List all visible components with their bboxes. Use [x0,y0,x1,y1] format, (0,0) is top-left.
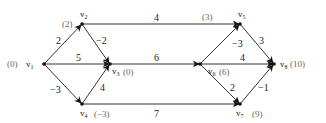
node-v2 [80,22,84,26]
label-v5: v5 [238,9,246,20]
label-v2: v2 [80,9,88,20]
value-v2: (2) [62,19,73,29]
weight-v4-v7: 7 [154,108,159,119]
edges [44,24,273,104]
value-v8: (10) [290,59,305,69]
weight-v6-v8: 4 [240,52,245,63]
node-v5 [238,22,242,26]
label-v3: v3 [112,66,120,77]
weight-v1-v2: 2 [56,35,61,46]
label-v6: v6 [208,66,216,77]
weight-v2-v3: −2 [96,35,107,46]
node-v7 [238,102,242,106]
label-v7: v7 [236,108,244,119]
directed-graph: 2 5 −3 −2 4 4 6 7 −3 4 2 3 −1 (0) v1 (2)… [0,0,326,123]
weight-v2-v5: 4 [154,12,159,23]
weight-v6-v5: −3 [232,38,243,49]
weight-v1-v3: 5 [76,52,81,63]
node-v6 [198,62,202,66]
value-v3: (0) [123,67,134,77]
weight-v5-v8: 3 [259,35,264,46]
weight-v1-v4: −3 [50,84,61,95]
weight-v7-v8: −1 [258,82,269,93]
node-v4 [80,102,84,106]
label-v8: v8 [280,59,288,70]
label-v4: v4 [80,108,88,119]
value-v6: (6) [219,67,230,77]
weight-v6-v7: 2 [230,82,235,93]
value-v7: (9) [252,109,263,119]
weight-v3-v6: 6 [154,52,159,63]
weight-v4-v3: 4 [100,82,105,93]
node-v8 [272,62,276,66]
value-v5: (3) [202,12,213,22]
value-v1: (0) [7,59,18,69]
node-v1 [42,62,46,66]
value-v4: (−3) [94,109,110,119]
label-v1: v1 [26,59,34,70]
